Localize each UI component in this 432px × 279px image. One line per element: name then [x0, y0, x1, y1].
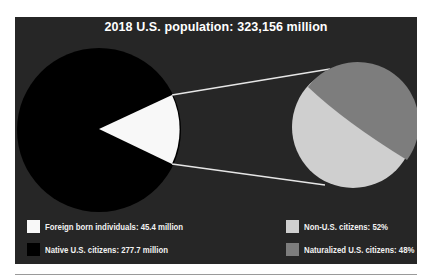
legend-item-non-citizen: Non-U.S. citizens: 52%: [286, 219, 406, 233]
legend-label-naturalized: Naturalized U.S. citizens: 48%: [304, 244, 414, 255]
bottom-divider: [15, 274, 417, 275]
main-pie: [17, 48, 181, 212]
legend-swatch-naturalized: [286, 243, 299, 256]
chart-panel: 2018 U.S. population: 323,156 million Fo…: [15, 17, 417, 264]
legend-label-foreign-born: Foreign born individuals: 45.4 million: [45, 221, 183, 232]
legend-label-native: Native U.S. citizens: 277.7 million: [45, 244, 168, 255]
breakdown-pie: [292, 62, 417, 188]
connector-line-bottom: [172, 164, 325, 185]
legend-swatch-foreign-born: [27, 220, 40, 233]
chart-title: 2018 U.S. population: 323,156 million: [15, 20, 417, 34]
legend-swatch-native: [27, 243, 40, 256]
legend-swatch-non-citizen: [286, 220, 299, 233]
legend-label-non-citizen: Non-U.S. citizens: 52%: [304, 221, 388, 232]
legend-item-native: Native U.S. citizens: 277.7 million: [27, 242, 195, 256]
legend-item-foreign-born: Foreign born individuals: 45.4 million: [27, 219, 213, 233]
legend-item-naturalized: Naturalized U.S. citizens: 48%: [286, 242, 432, 256]
